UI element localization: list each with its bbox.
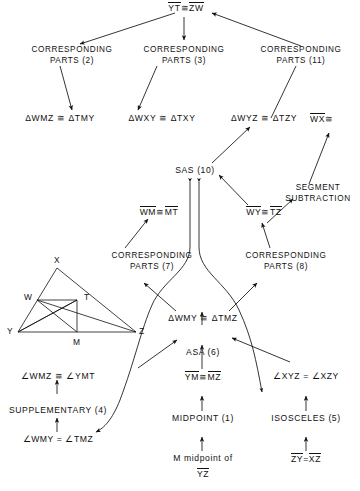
edge-segsub-to-wx [309,133,329,184]
edge-left-curve-to-sas [96,182,190,432]
edge-corr7-to-wmmt [125,219,148,248]
corr2-line2: PARTS (2) [14,55,130,66]
edge-wmy-to-corr7 [144,283,176,311]
segment-mz: MZ [208,371,222,382]
node-triangle-wmy-tmz[interactable]: ΔWMY ≅ ΔTMZ [152,313,254,324]
segment-tz: TZ [270,206,282,217]
edge-wytz-to-sas [219,175,248,205]
edge-wmy-to-corr8 [229,283,257,311]
corr2-line1: CORRESPONDING [14,44,130,55]
node-angle-xyz-xzy[interactable]: ∠XYZ = ∠XZY [253,371,359,382]
edge-wxy-to-corr3 [138,66,157,110]
node-top-goal[interactable]: YT≅ZW [158,2,214,14]
congruent-symbol: ≅ [181,3,190,13]
node-triangle-wmz-tmy[interactable]: ΔWMZ ≅ ΔTMY [8,113,112,124]
congruent-symbol-ymmz: ≅ [199,372,208,382]
node-angle-wmz-ymt[interactable]: ∠WMZ ≅ ∠YMT [8,371,108,382]
node-segment-subtraction[interactable]: SEGMENT SUBTRACTION [276,182,360,204]
segment-ym: YM [185,371,199,382]
corr3-line1: CORRESPONDING [126,44,242,55]
proof-flowchart: YT≅ZW CORRESPONDING PARTS (2) CORRESPOND… [0,0,360,491]
triangle-label-t: T [84,292,89,302]
corr7-line1: CORRESPONDING [98,250,206,261]
node-zy-xz[interactable]: ZY=XZ [279,453,333,465]
segment-mt: MT [165,206,179,217]
segsub-line2: SUBTRACTION [276,193,360,204]
segment-zw: ZW [189,2,204,13]
segsub-line1: SEGMENT [276,182,360,193]
congruent-symbol-wytz: ≅ [261,207,270,217]
node-sas-10[interactable]: SAS (10) [167,165,223,176]
node-wy-tz[interactable]: WY≅TZ [237,206,291,218]
segment-wx: WX [310,113,325,124]
corr7-line2: PARTS (7) [98,261,206,272]
node-supplementary-4[interactable]: SUPPLEMENTARY (4) [0,405,116,416]
node-angle-wmy-tmz[interactable]: ∠WMY = ∠TMZ [8,434,108,445]
corr11-line1: CORRESPONDING [243,44,359,55]
triangle-figure-lines [18,268,136,332]
node-isosceles-5[interactable]: ISOSCELES (5) [259,413,353,424]
node-segment-wx-partial[interactable]: WX≅ [310,113,356,125]
edge-sas-to-wyz [212,127,250,163]
node-asa-6[interactable]: ASA (6) [176,347,230,358]
corr8-line2: PARTS (8) [232,261,340,272]
triangle-label-w: W [24,292,32,302]
congruent-symbol-wx: ≅ [325,114,334,124]
node-triangle-wxy-txy[interactable]: ΔWXY ≅ ΔTXY [112,113,212,124]
triangle-label-z: Z [139,326,144,336]
segment-yt: YT [168,2,180,13]
triangle-label-x: X [54,255,60,265]
node-midpoint-1[interactable]: MIDPOINT (1) [158,413,248,424]
node-corresponding-parts-11[interactable]: CORRESPONDING PARTS (11) [243,44,359,66]
edge-wmz-to-corr2 [60,66,72,110]
triangle-label-y: Y [7,326,13,336]
congruent-symbol-wmmt: ≅ [156,207,165,217]
node-corresponding-parts-3[interactable]: CORRESPONDING PARTS (3) [126,44,242,66]
edge-wyz-to-corr11 [271,66,296,118]
segment-wm: WM [140,206,156,217]
node-triangle-wyz-tzy[interactable]: ΔWYZ ≅ ΔTZY [214,113,314,124]
corr8-line1: CORRESPONDING [232,250,340,261]
segment-xz: XZ [309,453,321,464]
segment-zy: ZY [291,453,303,464]
edge-corr11-to-goal [212,13,301,46]
edge-angwmz-to-asa [138,340,177,368]
edge-angxyz-to-asa [232,338,290,362]
edge-corr8-to-wytz [262,223,270,248]
given-line1: M midpoint of [156,453,250,464]
node-wm-mt[interactable]: WM≅MT [131,206,187,218]
node-corresponding-parts-8[interactable]: CORRESPONDING PARTS (8) [232,250,340,272]
edge-corr2-to-goal [80,13,175,44]
corr11-line2: PARTS (11) [243,55,359,66]
node-ym-mz[interactable]: YM≅MZ [176,371,230,383]
corr3-line2: PARTS (3) [126,55,242,66]
segment-wy: WY [246,206,261,217]
node-given-m-midpoint[interactable]: M midpoint of YZ [156,453,250,480]
node-corresponding-parts-7[interactable]: CORRESPONDING PARTS (7) [98,250,206,272]
segment-yz: YZ [197,468,209,479]
triangle-label-m: M [73,337,80,347]
node-corresponding-parts-2[interactable]: CORRESPONDING PARTS (2) [14,44,130,66]
